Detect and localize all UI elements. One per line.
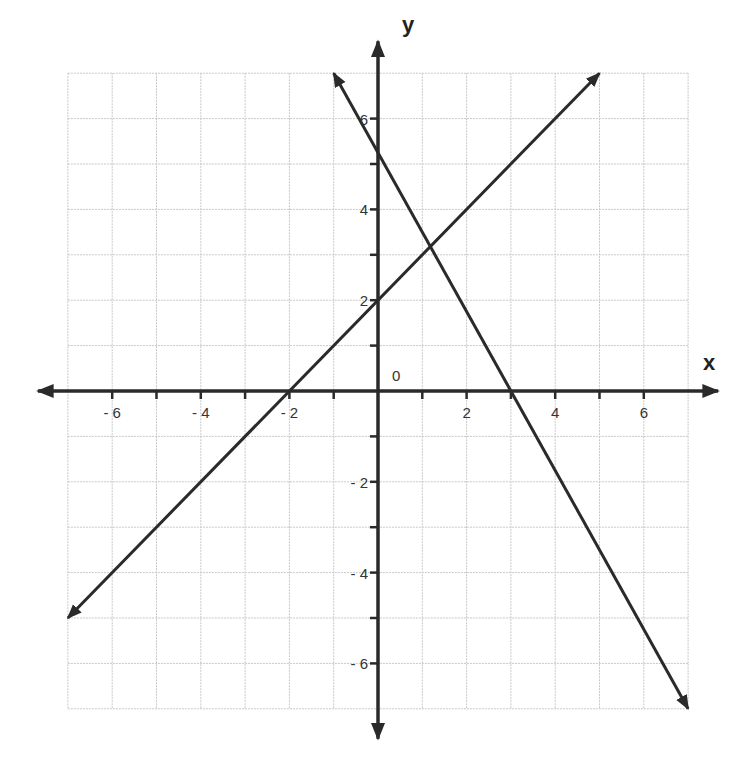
y-tick-label: 6 xyxy=(360,111,368,128)
y-axis-label: y xyxy=(402,12,415,37)
x-tick-label: - 2 xyxy=(281,404,299,421)
origin-label: 0 xyxy=(392,367,400,384)
y-tick-label: - 4 xyxy=(350,565,368,582)
x-axis-label: x xyxy=(703,350,716,375)
x-tick-label: - 6 xyxy=(103,404,121,421)
axes xyxy=(38,41,718,739)
coordinate-plane: - 6- 4- 2246- 6- 4- 2246 x y 0 xyxy=(0,0,749,765)
x-tick-label: 2 xyxy=(462,404,470,421)
y-tick-label: - 2 xyxy=(350,474,368,491)
y-tick-label: 4 xyxy=(360,201,368,218)
y-tick-label: - 6 xyxy=(350,655,368,672)
x-tick-label: 4 xyxy=(551,404,559,421)
y-tick-label: 2 xyxy=(360,292,368,309)
x-tick-label: 6 xyxy=(640,404,648,421)
x-tick-label: - 4 xyxy=(192,404,210,421)
